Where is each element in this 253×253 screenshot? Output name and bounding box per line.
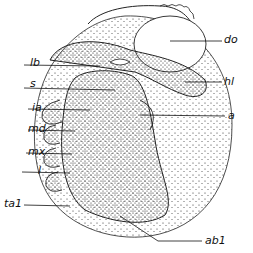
label-mx: mx — [28, 146, 45, 157]
label-md: md — [28, 123, 46, 134]
label-do: do — [224, 34, 238, 45]
label-ia: ia — [32, 102, 42, 113]
embryo-figure: lb s ia md mx l ta1 do hl a ab1 — [0, 0, 253, 253]
label-s: s — [30, 78, 36, 89]
label-ta1: ta1 — [4, 198, 22, 209]
label-hl: hl — [224, 76, 234, 87]
label-lb: lb — [30, 57, 40, 68]
label-l: l — [38, 165, 41, 176]
label-ab1: ab1 — [205, 235, 226, 246]
label-a: a — [228, 110, 235, 121]
